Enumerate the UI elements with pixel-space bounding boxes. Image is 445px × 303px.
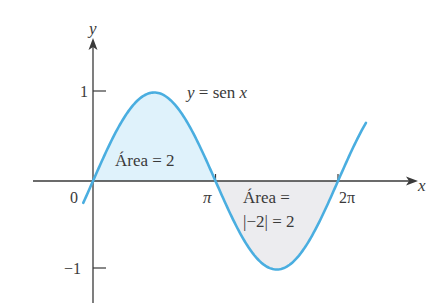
- chart: y x 0 π 2π 1 −1 y = sen x Área = 2 Área …: [0, 0, 445, 303]
- y-tick-label-minus-1: −1: [64, 260, 81, 277]
- x-axis-label: x: [417, 176, 426, 195]
- y-axis-label: y: [87, 19, 97, 38]
- two-pi-text: 2π: [339, 189, 355, 206]
- function-label-eq: = sen: [195, 83, 240, 102]
- x-tick-label-2pi: 2π: [339, 189, 355, 206]
- function-label-x: x: [239, 83, 248, 102]
- area-positive-label: Área = 2: [115, 151, 175, 170]
- x-tick-label-pi: π: [203, 188, 212, 207]
- area-negative-label-line2: |−2| = 2: [243, 212, 294, 231]
- area-negative-label-line1: Área =: [243, 188, 290, 207]
- y-tick-label-1: 1: [80, 83, 88, 100]
- plot-area: y x 0 π 2π 1 −1 y = sen x Área = 2 Área …: [0, 0, 445, 303]
- origin-label: 0: [70, 189, 78, 206]
- function-label: y = sen x: [185, 83, 248, 102]
- function-label-y: y: [185, 83, 195, 102]
